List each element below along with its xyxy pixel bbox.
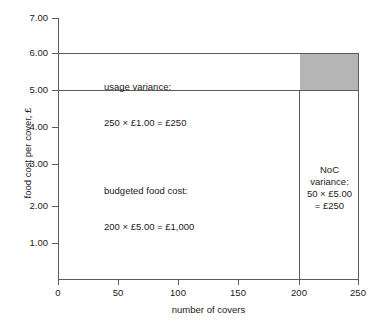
x-tick-label-0: 0 — [38, 288, 78, 298]
usage-variance-annotation: usage variance: 250 × £1.00 = £250 — [104, 57, 186, 153]
x-tick-0 — [58, 279, 59, 285]
actual-covers-right-line — [358, 53, 359, 280]
noc-variance-line-4: = £250 — [302, 200, 357, 212]
x-tick-label-200: 200 — [279, 288, 319, 298]
shaded-overlap-region — [300, 54, 358, 90]
y-axis-line — [58, 18, 59, 280]
x-tick-100 — [178, 279, 179, 285]
x-axis-title: number of covers — [58, 305, 359, 315]
budget-covers-right-line — [299, 90, 300, 280]
y-tick-7 — [52, 18, 58, 19]
usage-variance-line-2: 250 × £1.00 = £250 — [104, 117, 186, 129]
y-tick-2 — [52, 206, 58, 207]
budgeted-food-cost-line-2: 200 × £5.00 = £1,000 — [104, 221, 194, 233]
x-axis-line — [58, 279, 359, 280]
budgeted-food-cost-line-1: budgeted food cost: — [104, 185, 194, 197]
usage-variance-top-line — [58, 53, 359, 54]
noc-variance-line-1: NoC — [302, 164, 357, 176]
noc-variance-line-3: 50 × £5.00 — [302, 188, 357, 200]
x-tick-label-100: 100 — [158, 288, 198, 298]
x-tick-label-150: 150 — [218, 288, 258, 298]
usage-variance-line-1: usage variance: — [104, 81, 186, 93]
x-tick-label-250: 250 — [338, 288, 378, 298]
noc-variance-line-2: variance: — [302, 176, 357, 188]
y-tick-4 — [52, 127, 58, 128]
y-tick-label-7: 7.00 — [30, 13, 49, 23]
noc-variance-annotation: NoC variance: 50 × £5.00 = £250 — [302, 164, 357, 212]
x-tick-150 — [238, 279, 239, 285]
y-tick-label-6: 6.00 — [30, 48, 49, 58]
budgeted-food-cost-annotation: budgeted food cost: 200 × £5.00 = £1,000 — [104, 161, 194, 257]
y-axis-title: food cost per cover, £ — [23, 63, 33, 243]
variance-chart: 7.00 6.00 5.00 4.00 3.00 2.00 1.00 0 50 … — [0, 0, 380, 328]
y-tick-1 — [52, 243, 58, 244]
x-tick-label-50: 50 — [98, 288, 138, 298]
y-tick-3 — [52, 164, 58, 165]
x-tick-50 — [118, 279, 119, 285]
